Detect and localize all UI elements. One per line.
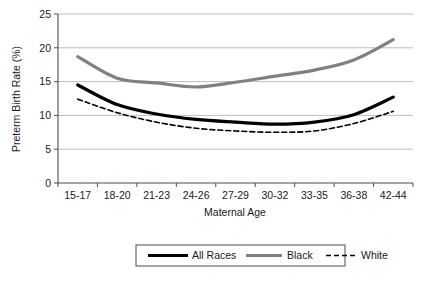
chart-background — [0, 0, 448, 282]
x-tick-label-27-29: 27-29 — [222, 189, 249, 201]
y-tick-label-0: 0 — [45, 177, 51, 189]
preterm-birth-rate-line-chart: 0510152025 15-1718-2021-2324-2627-2930-3… — [0, 0, 448, 282]
x-tick-label-36-38: 36-38 — [340, 189, 367, 201]
y-axis-title: Preterm Birth Rate (%) — [10, 46, 22, 152]
x-tick-label-42-44: 42-44 — [380, 189, 407, 201]
x-axis-tick-labels: 15-1718-2021-2324-2627-2930-3233-3536-38… — [64, 189, 407, 201]
x-tick-label-18-20: 18-20 — [104, 189, 131, 201]
y-tick-label-20: 20 — [39, 42, 51, 54]
chart-figure: 0510152025 15-1718-2021-2324-2627-2930-3… — [0, 0, 448, 282]
x-tick-label-30-32: 30-32 — [262, 189, 289, 201]
legend-label-black: Black — [287, 249, 313, 261]
x-tick-label-24-26: 24-26 — [183, 189, 210, 201]
y-tick-label-10: 10 — [39, 109, 51, 121]
legend-label-white: White — [361, 249, 388, 261]
x-tick-label-33-35: 33-35 — [301, 189, 328, 201]
x-tick-label-21-23: 21-23 — [143, 189, 170, 201]
x-tick-label-15-17: 15-17 — [64, 189, 91, 201]
y-tick-label-25: 25 — [39, 8, 51, 20]
y-tick-label-5: 5 — [45, 143, 51, 155]
x-axis-title: Maternal Age — [204, 206, 266, 218]
y-tick-label-15: 15 — [39, 75, 51, 87]
legend-label-all-races: All Races — [192, 249, 236, 261]
